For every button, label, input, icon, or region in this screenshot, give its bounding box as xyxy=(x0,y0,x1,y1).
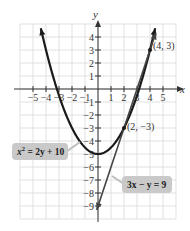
point-label-2-neg3: (2, −3) xyxy=(127,121,154,133)
y-tick-label: 1 xyxy=(89,71,94,82)
y-axis-arrow-icon xyxy=(95,20,101,27)
point-label-4-3: (4, 3) xyxy=(153,40,175,52)
y-tick-label: 2 xyxy=(89,58,94,69)
y-tick-label: −7 xyxy=(83,175,94,186)
x-tick-label: 5 xyxy=(161,92,166,103)
x-tick-label: 4 xyxy=(148,92,153,103)
line-equation-label: 3x − y = 9 xyxy=(127,180,167,190)
y-tick-label: 3 xyxy=(89,45,94,56)
parabola-callout-leader xyxy=(66,142,80,152)
x-tick-label: 1 xyxy=(109,92,114,103)
y-tick-label: −8 xyxy=(83,188,94,199)
x-tick-label: −2 xyxy=(67,92,78,103)
x-tick-label: 2 xyxy=(122,92,127,103)
y-tick-label: 4 xyxy=(89,32,94,43)
x-tick-label: −4 xyxy=(41,92,52,103)
y-tick-label: −2 xyxy=(83,110,94,121)
x-tick-label: −5 xyxy=(28,92,39,103)
intersection-point-2-neg3 xyxy=(122,126,126,130)
y-tick-label: −1 xyxy=(83,97,94,108)
graph-figure: −5−4−3−2−1123454321−1−2−3−4−5−6−7−8−9 (4… xyxy=(0,0,190,231)
x-axis-label: x xyxy=(179,83,185,95)
y-axis-label: y xyxy=(92,8,98,20)
y-tick-label: −4 xyxy=(83,136,94,147)
y-tick-label: −9 xyxy=(83,201,94,212)
intersection-point-4-3 xyxy=(148,48,152,52)
y-tick-label: −3 xyxy=(83,123,94,134)
y-tick-label: −6 xyxy=(83,162,94,173)
